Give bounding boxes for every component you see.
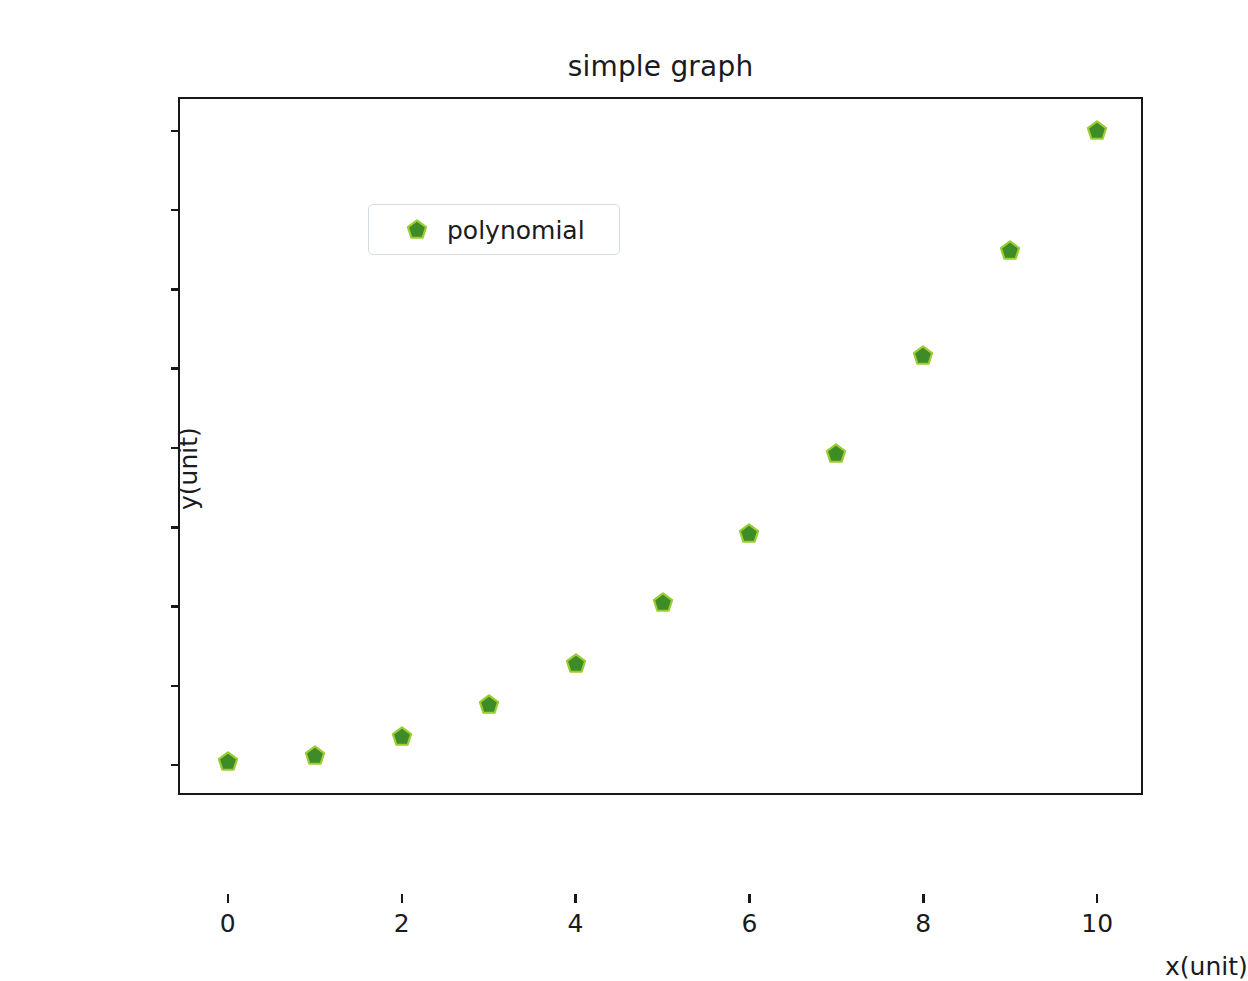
data-point-marker	[999, 240, 1021, 262]
data-point-marker	[912, 345, 934, 367]
y-axis-tick-mark	[171, 605, 180, 607]
x-axis-tick-mark	[227, 894, 229, 903]
x-axis-tick-mark	[401, 894, 403, 903]
data-point-marker	[738, 523, 760, 545]
y-axis-tick-mark	[171, 209, 180, 211]
y-axis-tick-mark	[171, 288, 180, 290]
scatter-series-polynomial	[180, 99, 1141, 793]
data-point-marker	[304, 745, 326, 767]
data-point-marker	[825, 443, 847, 465]
x-axis-tick-mark	[574, 894, 576, 903]
x-axis-tick-label: 4	[568, 909, 584, 938]
data-point-marker	[565, 653, 587, 675]
legend-pentagon-marker-icon	[406, 219, 428, 241]
x-axis-tick-label: 0	[220, 909, 236, 938]
data-point-marker	[478, 694, 500, 716]
legend-entry-label: polynomial	[447, 215, 585, 244]
data-point-marker	[217, 751, 239, 773]
y-axis-tick-mark	[171, 130, 180, 132]
data-point-marker	[391, 726, 413, 748]
y-axis-tick-mark	[171, 367, 180, 369]
y-axis-tick-mark	[171, 526, 180, 528]
data-point-marker	[652, 592, 674, 614]
x-axis-label: x(unit)	[1165, 952, 1248, 981]
x-axis-tick-label: 10	[1081, 909, 1113, 938]
y-axis-tick-mark	[171, 685, 180, 687]
x-axis-tick-label: 2	[394, 909, 410, 938]
x-axis-tick-mark	[748, 894, 750, 903]
chart-title: simple graph	[178, 50, 1143, 83]
x-axis-tick-mark	[1096, 894, 1098, 903]
y-axis-label: y(unit)	[174, 427, 203, 510]
y-axis-tick-mark	[171, 764, 180, 766]
data-point-marker	[1086, 120, 1108, 142]
y-axis-tick-mark	[171, 447, 180, 449]
legend-box[interactable]: polynomial	[368, 204, 620, 255]
plot-axes: polynomial x(unit) y(unit) 0255075100125…	[178, 97, 1143, 795]
x-axis-tick-label: 8	[915, 909, 931, 938]
x-axis-tick-mark	[922, 894, 924, 903]
x-axis-tick-label: 6	[741, 909, 757, 938]
